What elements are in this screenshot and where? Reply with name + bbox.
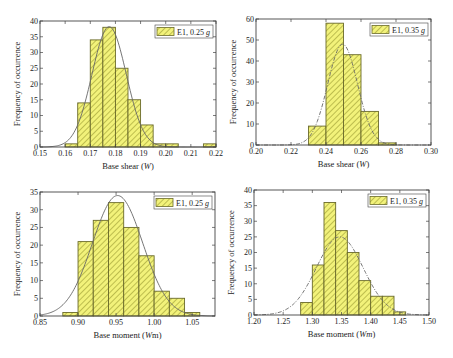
y-axis-label: Frequency of occurrence — [12, 212, 22, 297]
legend-label: E1, 0.25 g — [176, 199, 209, 208]
legend-label: E1, 0.35 g — [390, 197, 423, 206]
x-axis-label: Base moment (Wm) — [93, 330, 161, 340]
legend-label: E1, 0.25 g — [177, 28, 210, 37]
x-tick-label: 0.22 — [284, 147, 298, 156]
y-tick-label: 30 — [30, 206, 38, 215]
histogram-bar — [103, 27, 116, 147]
y-tick-label: 10 — [246, 120, 254, 129]
y-tick-label: 15 — [30, 96, 38, 105]
y-tick-label: 25 — [30, 223, 38, 232]
x-tick-label: 0.17 — [83, 149, 97, 158]
x-tick-label: 0.28 — [389, 147, 403, 156]
legend-swatch — [157, 28, 174, 36]
x-axis-label-text: ) — [372, 329, 375, 339]
x-tick-label: 0.30 — [424, 147, 438, 156]
histogram-bar — [124, 227, 139, 316]
x-tick-label: 1.00 — [147, 318, 161, 327]
y-tick-label: 0 — [250, 141, 254, 150]
x-tick-label: 0.18 — [108, 149, 122, 158]
histogram-bar — [108, 203, 123, 316]
y-tick-label: 50 — [246, 36, 254, 45]
x-axis-label-text: Base shear ( — [102, 161, 144, 171]
y-tick-label: 15 — [244, 264, 252, 273]
x-axis-label-unit: Wm — [359, 329, 372, 339]
x-tick-label: 1.30 — [305, 317, 319, 326]
x-axis-label-text: m) — [152, 330, 162, 340]
y-tick-label: 30 — [244, 217, 252, 226]
legend-label-unit: g — [206, 28, 210, 37]
y-tick-label: 40 — [30, 17, 38, 26]
chart-top-left: 0.150.160.170.180.190.200.210.2205101520… — [12, 17, 223, 171]
x-axis-label: Base moment (Wm) — [308, 329, 376, 339]
x-tick-label: 0.22 — [209, 149, 223, 158]
legend-label-unit: g — [421, 26, 425, 35]
x-tick-label: 1.35 — [335, 317, 349, 326]
x-tick-label: 0.26 — [354, 147, 368, 156]
y-tick-label: 10 — [30, 276, 38, 285]
x-tick-label: 0.19 — [134, 149, 148, 158]
y-tick-label: 30 — [30, 48, 38, 57]
y-tick-label: 10 — [244, 280, 252, 289]
y-tick-label: 5 — [34, 127, 38, 136]
legend-swatch — [370, 197, 387, 205]
y-axis-label: Frequency of occurrence — [226, 210, 236, 295]
y-tick-label: 20 — [246, 99, 254, 108]
x-axis-label-text: Base moment ( — [93, 330, 145, 340]
x-axis-label-text: Base moment ( — [308, 329, 360, 339]
charts-group: 0.150.160.170.180.190.200.210.2205101520… — [12, 15, 438, 340]
x-tick-label: 0.24 — [319, 147, 333, 156]
histogram-bar — [326, 23, 344, 145]
histogram-bar — [359, 281, 371, 315]
histogram-bar — [347, 253, 359, 316]
histogram-bar — [65, 144, 78, 147]
histogram-bar — [361, 111, 379, 145]
legend-label-text: E1, 0.25 — [176, 199, 205, 208]
x-axis-label-text: ) — [151, 161, 154, 171]
histogram-bar — [78, 242, 93, 316]
legend-label-text: E1, 0.25 — [177, 28, 206, 37]
y-axis-label: Frequency of occurrence — [12, 42, 22, 127]
x-tick-label: 1.05 — [185, 318, 199, 327]
legend-label-unit: g — [205, 199, 209, 208]
y-tick-label: 20 — [244, 248, 252, 257]
legend-label-text: E1, 0.35 — [390, 197, 419, 206]
x-tick-label: 1.40 — [364, 317, 378, 326]
y-tick-label: 35 — [30, 33, 38, 42]
y-tick-label: 20 — [30, 80, 38, 89]
histogram-bar — [312, 265, 324, 315]
x-tick-label: 1.25 — [276, 317, 290, 326]
histogram-bar — [154, 291, 169, 316]
x-tick-label: 1.50 — [422, 317, 436, 326]
x-tick-label: 0.90 — [71, 318, 85, 327]
y-tick-label: 35 — [30, 188, 38, 197]
y-tick-label: 0 — [248, 311, 252, 320]
y-axis-label: Frequency of occurrence — [228, 40, 238, 125]
histogram-bar — [139, 256, 154, 316]
figure-canvas: 0.150.160.170.180.190.200.210.2205101520… — [0, 0, 453, 358]
x-tick-label: 1.45 — [393, 317, 407, 326]
legend-swatch — [156, 199, 173, 207]
histogram-bar — [324, 203, 336, 316]
x-axis-label-text: Base shear ( — [318, 159, 360, 169]
x-axis-label: Base shear (W) — [318, 159, 370, 169]
y-tick-label: 15 — [30, 259, 38, 268]
x-axis-label: Base shear (W) — [102, 161, 154, 171]
y-tick-label: 40 — [244, 186, 252, 195]
chart-bottom-right: 1.201.251.301.351.401.451.50051015202530… — [226, 186, 436, 339]
y-tick-label: 0 — [34, 143, 38, 152]
y-tick-label: 35 — [244, 201, 252, 210]
y-tick-label: 20 — [30, 241, 38, 250]
y-tick-label: 25 — [30, 64, 38, 73]
y-tick-label: 5 — [34, 294, 38, 303]
x-tick-label: 0.21 — [184, 149, 198, 158]
histogram-bar — [371, 296, 383, 315]
histogram-bar — [309, 126, 327, 145]
histogram-bar — [78, 103, 91, 147]
x-tick-label: 0.20 — [159, 149, 173, 158]
histogram-bar — [169, 298, 184, 316]
legend-label-text: E1, 0.35 — [392, 26, 421, 35]
chart-top-right: 0.200.220.240.260.280.300102030405060Bas… — [228, 15, 438, 169]
legend-swatch — [372, 26, 389, 34]
y-tick-label: 60 — [246, 15, 254, 24]
figure: 0.150.160.170.180.190.200.210.2205101520… — [0, 0, 453, 358]
